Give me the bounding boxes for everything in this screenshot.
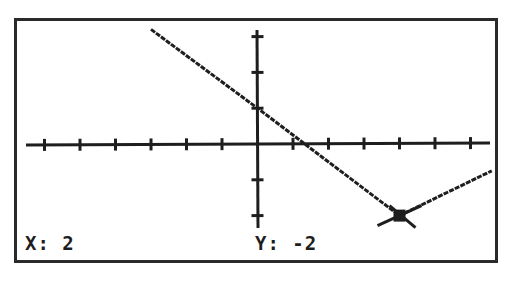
y-coordinate-readout: Y: -2	[255, 232, 317, 254]
x-coordinate-readout: X: 2	[25, 232, 75, 254]
y-axis	[257, 30, 258, 228]
y-label: Y:	[255, 232, 280, 254]
x-label: X:	[25, 232, 50, 254]
y-value: -2	[292, 232, 317, 254]
graph-plot	[0, 0, 507, 284]
graph-line	[151, 29, 492, 215]
x-value: 2	[62, 232, 74, 254]
trace-cursor-icon	[378, 206, 422, 228]
axes	[26, 30, 490, 228]
